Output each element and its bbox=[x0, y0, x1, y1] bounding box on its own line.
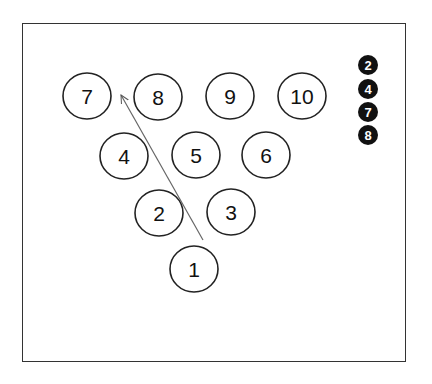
pin-5: 5 bbox=[172, 132, 220, 178]
pin-label: 10 bbox=[290, 85, 313, 108]
legend-item-8: 8 bbox=[358, 125, 378, 145]
pin-label: 5 bbox=[190, 144, 202, 167]
legend: 2478 bbox=[358, 55, 378, 145]
legend-label: 8 bbox=[364, 128, 371, 143]
pin-2: 2 bbox=[135, 190, 183, 236]
pin-label: 8 bbox=[152, 86, 164, 109]
pin-10: 10 bbox=[278, 73, 326, 119]
pin-label: 3 bbox=[225, 201, 237, 224]
legend-label: 2 bbox=[364, 58, 371, 73]
pin-9: 9 bbox=[206, 73, 254, 119]
pin-label: 9 bbox=[224, 85, 236, 108]
legend-item-7: 7 bbox=[358, 102, 378, 122]
pin-6: 6 bbox=[242, 132, 290, 178]
legend-label: 7 bbox=[364, 105, 371, 120]
legend-item-2: 2 bbox=[358, 55, 378, 75]
pin-label: 2 bbox=[153, 202, 165, 225]
pin-7: 7 bbox=[63, 73, 111, 119]
bowling-pin-diagram: 78910456231 2478 bbox=[0, 0, 432, 384]
pin-4: 4 bbox=[100, 133, 148, 179]
pin-3: 3 bbox=[207, 189, 255, 235]
legend-item-4: 4 bbox=[358, 79, 378, 99]
pin-label: 6 bbox=[260, 144, 272, 167]
legend-label: 4 bbox=[364, 82, 372, 97]
pin-1: 1 bbox=[170, 246, 218, 292]
pin-label: 7 bbox=[81, 85, 93, 108]
pin-label: 1 bbox=[188, 258, 200, 281]
pin-8: 8 bbox=[134, 74, 182, 120]
pin-label: 4 bbox=[118, 145, 130, 168]
